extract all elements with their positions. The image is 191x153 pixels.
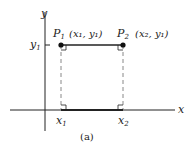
y1-tick-label: y1 — [29, 38, 41, 52]
point-p2-coords: (x₂, y₁) — [135, 28, 169, 39]
x1-tick-label: x1 — [56, 114, 67, 128]
x-axis-label: x — [178, 103, 185, 116]
x2-tick-label: x2 — [118, 114, 129, 128]
y-axis-label: y — [40, 7, 48, 20]
point-p1-label: P1 — [52, 27, 65, 41]
point-p1-coords: (x₁, y₁) — [69, 28, 103, 39]
figure-caption: (a) — [80, 131, 94, 142]
point-p2 — [120, 42, 125, 47]
point-p2-label: P2 — [116, 27, 129, 41]
point-p1 — [58, 42, 63, 47]
distance-diagram: y x y1 x1 x2 P1 (x₁, y₁) P2 (x₂, y₁) (a) — [0, 0, 191, 153]
